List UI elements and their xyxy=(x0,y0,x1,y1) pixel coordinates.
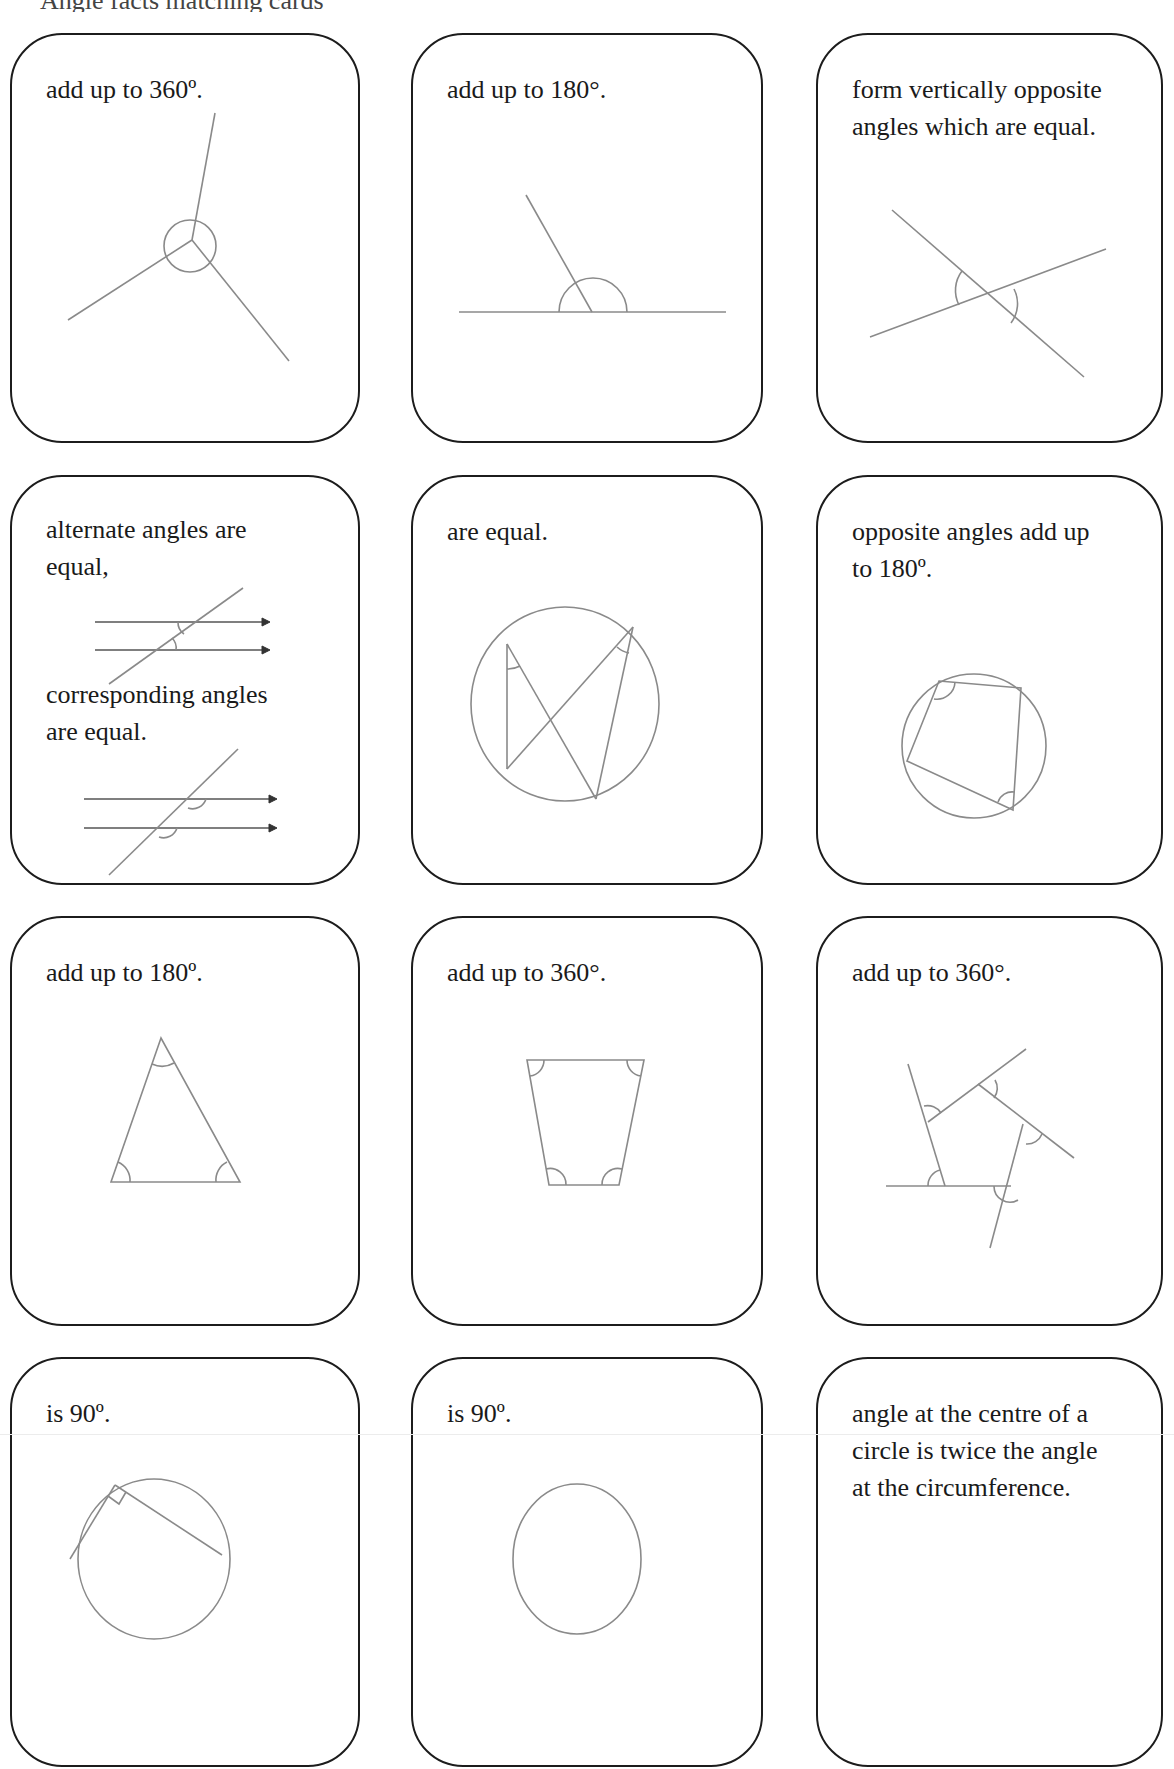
exterior-angles-diagram-icon xyxy=(818,918,1165,1328)
cyclic-quadrilateral-diagram-icon xyxy=(818,477,1165,887)
card-text: angle at the centre of a circle is twice… xyxy=(852,1395,1141,1506)
card-text-line: at the circumference. xyxy=(852,1469,1141,1506)
angles-at-point-diagram-icon xyxy=(12,35,362,445)
parallel-lines-diagram-icon xyxy=(12,477,362,887)
triangle-diagram-icon xyxy=(12,918,362,1328)
card-text-line: circle is twice the angle xyxy=(852,1432,1141,1469)
cropped-header-text: Angle facts matching cards xyxy=(40,0,324,12)
scan-artifact-divider xyxy=(0,1434,1174,1435)
card-angle-at-centre: angle at the centre of a circle is twice… xyxy=(816,1357,1163,1767)
vertically-opposite-angles-diagram-icon xyxy=(818,35,1165,445)
card-parallel-lines: alternate angles are equal, correspondin… xyxy=(10,475,360,885)
card-angles-at-point: add up to 360º. xyxy=(10,33,360,443)
card-cyclic-quadrilateral: opposite angles add up to 180º. xyxy=(816,475,1163,885)
straight-line-angles-diagram-icon xyxy=(413,35,765,445)
quadrilateral-diagram-icon xyxy=(413,918,765,1328)
cropped-header-strip: Angle facts matching cards xyxy=(0,0,1174,12)
card-angles-on-straight-line: add up to 180°. xyxy=(411,33,763,443)
card-angle-in-semicircle: is 90º. xyxy=(10,1357,360,1767)
card-tangent-radius: is 90º. xyxy=(411,1357,763,1767)
card-vertically-opposite-angles: form vertically opposite angles which ar… xyxy=(816,33,1163,443)
card-quadrilateral-angles: add up to 360°. xyxy=(411,916,763,1326)
card-angles-same-segment: are equal. xyxy=(411,475,763,885)
card-triangle-angles: add up to 180º. xyxy=(10,916,360,1326)
circle-tangent-diagram-icon xyxy=(413,1359,765,1769)
card-exterior-angles: add up to 360°. xyxy=(816,916,1163,1326)
card-text-line: angle at the centre of a xyxy=(852,1395,1141,1432)
same-segment-angles-diagram-icon xyxy=(413,477,765,887)
angle-in-semicircle-diagram-icon xyxy=(12,1359,362,1769)
